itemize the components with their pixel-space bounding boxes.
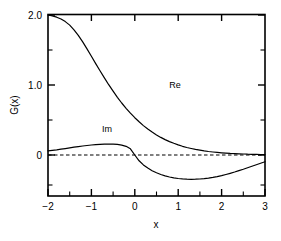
x-tick-label-0: 0 — [132, 201, 138, 212]
curve-re — [48, 15, 265, 155]
x-axis-top-ticks — [91, 15, 221, 21]
x-tick-label-3: 3 — [262, 201, 268, 212]
y-tick-label-1: 1.0 — [28, 80, 42, 91]
x-tick-label-2: 2 — [219, 201, 225, 212]
chart-figure: 2.0 1.0 0 −2 −1 0 1 2 3 x G(x) Re Im — [0, 0, 281, 241]
plot-svg: 2.0 1.0 0 −2 −1 0 1 2 3 x G(x) Re Im — [0, 0, 281, 241]
x-tick-label-1: 1 — [175, 201, 181, 212]
y-tick-label-2: 2.0 — [28, 10, 42, 21]
annotation-re: Re — [169, 80, 181, 90]
x-tick-label-minus2: −2 — [42, 201, 54, 212]
y-axis-right-ticks — [258, 15, 265, 185]
y-axis-major-ticks — [48, 15, 55, 155]
x-tick-label-minus1: −1 — [86, 201, 98, 212]
curve-im — [48, 144, 265, 179]
annotation-im: Im — [102, 124, 112, 134]
x-axis-title: x — [154, 219, 159, 230]
y-axis-title: G(x) — [9, 95, 20, 114]
plot-frame — [48, 15, 265, 197]
y-tick-label-0: 0 — [36, 150, 42, 161]
